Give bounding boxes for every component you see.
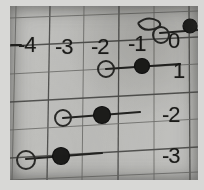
graph-paper-sheet: -4 -3 -2 -1 0 1 -2 -3 bbox=[10, 6, 198, 180]
y-tick-label--3: -3 bbox=[162, 145, 180, 167]
x-tick-label--3: -3 bbox=[55, 36, 73, 58]
y-tick-label--2: -2 bbox=[162, 104, 180, 126]
x-tick-label-0: 0 bbox=[168, 30, 179, 52]
y-tick-label-1: 1 bbox=[173, 60, 184, 82]
x-tick-label--1: -1 bbox=[128, 33, 146, 55]
photo-canvas: -4 -3 -2 -1 0 1 -2 -3 bbox=[0, 0, 204, 190]
minus-dash-left bbox=[10, 44, 22, 46]
x-tick-label--2: -2 bbox=[91, 36, 109, 58]
